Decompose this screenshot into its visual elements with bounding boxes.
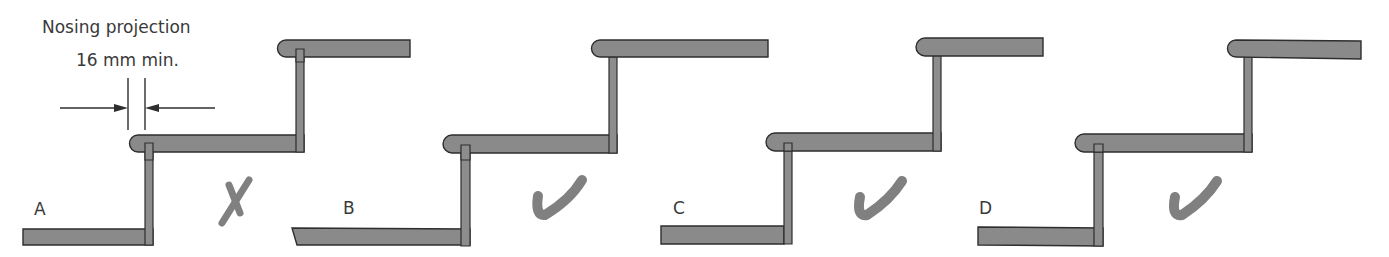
tread — [916, 38, 1043, 56]
panel-label-d: D — [979, 199, 992, 217]
cross-icon — [222, 180, 249, 223]
check-icon — [1174, 181, 1217, 215]
riser — [1244, 51, 1252, 152]
floor-tread — [23, 229, 153, 245]
arrow-left-icon — [145, 104, 159, 112]
riser — [296, 50, 304, 152]
panel-label-b: B — [343, 199, 355, 217]
riser — [933, 49, 941, 151]
panel-label-c: C — [673, 199, 685, 217]
annotation-title: Nosing projection — [42, 17, 191, 37]
panel-b-stair — [292, 40, 768, 246]
panel-label-a: A — [34, 200, 46, 218]
riser — [1094, 145, 1103, 246]
riser — [609, 57, 617, 153]
floor-tread — [292, 228, 470, 245]
check-icon — [537, 180, 582, 215]
riser — [784, 143, 792, 244]
panel-d-stair — [978, 40, 1361, 246]
tread — [592, 40, 769, 57]
annotation-measurement: 16 mm min. — [76, 50, 179, 70]
floor-tread — [661, 226, 784, 244]
nosing-dimension — [60, 78, 215, 130]
check-icon — [859, 181, 902, 215]
tread — [130, 135, 305, 152]
tread — [1228, 40, 1362, 59]
floor-tread — [978, 227, 1103, 246]
stair-nosing-diagram: .w{fill:#8a8a8a;stroke:#2e2e2e;stroke-wi… — [0, 0, 1389, 257]
arrow-right-icon — [114, 104, 128, 112]
